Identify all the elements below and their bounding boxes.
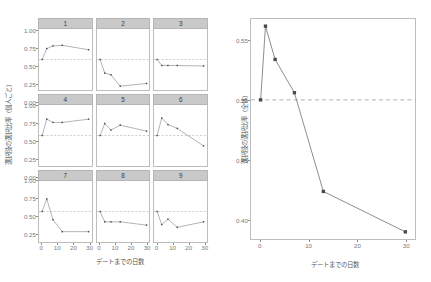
data-point-6-0 [157, 135, 158, 136]
data-point-4-1 [46, 118, 47, 119]
left-y-tickmark-0 [36, 30, 38, 31]
facet-plot-area-3 [153, 29, 208, 91]
series-line-2 [100, 60, 146, 87]
left-y-tick-r3-0-50: 0.50 [24, 213, 36, 220]
left-x-tick-c2-30: 30 [144, 244, 151, 251]
data-point-8-3 [119, 221, 120, 222]
facet-panel-7: 7 [38, 170, 93, 243]
data-point-1-4 [88, 49, 89, 50]
data-point-1-3 [62, 45, 63, 46]
left-x-tick-c1-20: 20 [70, 244, 77, 251]
left-y-tick-0-25: 0.25 [24, 81, 36, 88]
right-data-point-1 [264, 24, 267, 27]
series-line-9 [157, 212, 203, 228]
facet-plot-area-4 [38, 105, 93, 167]
right-y-tick-0-40: 0.40 [236, 216, 248, 223]
right-data-point-2 [273, 58, 276, 61]
data-point-2-4 [146, 83, 147, 84]
right-y-tickmark-1 [248, 100, 250, 101]
right-y-tickmark-2 [248, 160, 250, 161]
right-plot-panel [250, 18, 416, 240]
right-y-tick-0-55: 0.55 [236, 36, 248, 43]
left-y-tick-r2-0-25: 0.25 [24, 156, 36, 163]
facet-strip-label-9: 9 [153, 170, 208, 181]
data-point-6-4 [203, 145, 204, 146]
data-point-1-2 [52, 45, 53, 46]
data-point-9-1 [161, 224, 162, 225]
data-point-9-4 [203, 221, 204, 222]
data-point-2-1 [104, 72, 105, 73]
left-x-tick-c3-0: 0 [155, 244, 158, 251]
left-y-tick-r3-0-25: 0.25 [24, 231, 36, 238]
series-line-3 [157, 60, 203, 67]
data-point-5-3 [119, 124, 120, 125]
right-x-tickmark-0 [260, 240, 261, 242]
series-line-7 [42, 199, 88, 232]
data-point-8-1 [104, 221, 105, 222]
right-x-tickmark-20 [357, 240, 358, 242]
data-point-4-2 [52, 122, 53, 123]
data-point-3-0 [157, 59, 158, 60]
left-x-tickmark-c2-20 [131, 243, 132, 245]
left-y-tick-r2-0-75: 0.75 [24, 120, 36, 127]
facet-panel-6: 6 [153, 94, 208, 167]
right-y-tick-0-45: 0.45 [236, 156, 248, 163]
left-y-tick-r3-1-00: 1.00 [24, 177, 36, 184]
left-x-tickmark-c2-0 [99, 243, 100, 245]
right-y-tick-0-50: 0.50 [236, 96, 248, 103]
facet-plot-area-8 [96, 181, 151, 243]
left-x-tick-c2-20: 20 [128, 244, 135, 251]
left-x-tick-c1-10: 10 [54, 244, 61, 251]
data-point-7-4 [88, 231, 89, 232]
facet-svg-1 [39, 29, 92, 90]
left-x-tickmark-c3-20 [189, 243, 190, 245]
right-overall-chart: 選択肢の選択比率（全体） 0.55 0.50 0.45 0.40 0102030… [215, 0, 431, 282]
facet-svg-5 [97, 105, 150, 166]
facet-svg-8 [97, 181, 150, 242]
right-data-point-5 [404, 230, 407, 233]
left-x-tickmark-c1-10 [57, 243, 58, 245]
left-x-tickmark-c1-30 [90, 243, 91, 245]
left-x-tickmark-c3-10 [173, 243, 174, 245]
facet-grid: 123456789 [38, 18, 208, 243]
left-x-tick-c3-10: 10 [169, 244, 176, 251]
data-point-3-1 [161, 65, 162, 66]
data-point-5-2 [110, 129, 111, 130]
left-y-axis-title: 選択肢の選択比率（個人ごと） [6, 68, 12, 178]
series-line-4 [42, 119, 88, 135]
facet-panel-2: 2 [96, 18, 151, 91]
facet-strip-label-6: 6 [153, 94, 208, 105]
left-y-tick-r2-0-50: 0.50 [24, 138, 36, 145]
data-point-5-1 [104, 123, 105, 124]
right-x-tick-20: 20 [354, 242, 361, 249]
data-point-2-3 [119, 85, 120, 86]
left-y-tickmark-9 [36, 177, 38, 178]
left-y-tickmark-6 [36, 123, 38, 124]
data-point-8-2 [110, 221, 111, 222]
left-y-tickmark-2 [36, 66, 38, 67]
left-x-tick-c3-30: 30 [201, 244, 208, 251]
left-x-tickmark-c1-20 [73, 243, 74, 245]
facet-strip-label-5: 5 [96, 94, 151, 105]
data-point-2-0 [99, 59, 100, 60]
right-x-tick-30: 30 [403, 242, 410, 249]
facet-plot-area-1 [38, 29, 93, 91]
right-series-line [261, 26, 406, 232]
right-x-tick-10: 10 [305, 242, 312, 249]
data-point-4-3 [62, 122, 63, 123]
left-y-tick-r2-1-00: 1.00 [24, 102, 36, 109]
data-point-9-2 [168, 218, 169, 219]
data-point-5-0 [99, 135, 100, 136]
facet-panel-9: 9 [153, 170, 208, 243]
left-y-tick-1-00: 1.00 [24, 27, 36, 34]
data-point-9-3 [177, 227, 178, 228]
left-x-tickmark-c3-0 [157, 243, 158, 245]
facet-strip-label-7: 7 [38, 170, 93, 181]
left-x-tickmark-c2-10 [115, 243, 116, 245]
data-point-4-4 [88, 118, 89, 119]
data-point-1-1 [46, 48, 47, 49]
right-plot-svg [251, 19, 415, 239]
data-point-7-0 [41, 211, 42, 212]
right-x-tick-0: 0 [258, 242, 261, 249]
left-y-tickmark-5 [36, 105, 38, 106]
